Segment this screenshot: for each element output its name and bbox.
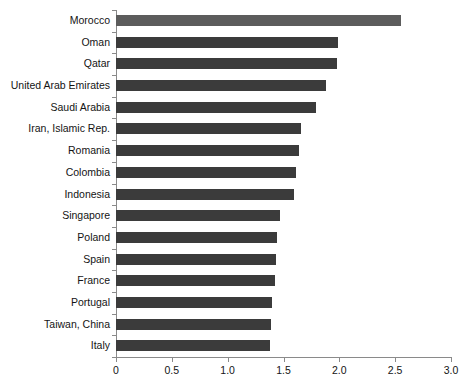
category-label: Colombia [66,164,110,180]
bar-row: Singapore [116,205,451,227]
category-label: Qatar [84,55,110,71]
category-label: Indonesia [64,186,110,202]
category-label: United Arab Emirates [11,77,110,93]
category-label: Oman [81,34,110,50]
plot-area: MoroccoOmanQatarUnited Arab EmiratesSaud… [116,10,451,357]
bar [116,123,301,134]
bar-row: Spain [116,249,451,271]
x-axis-tick [116,357,117,362]
bar-row: Colombia [116,162,451,184]
x-axis-tick [228,357,229,362]
bar-row: Morocco [116,10,451,32]
bar-row: Taiwan, China [116,314,451,336]
bar-row: Qatar [116,53,451,75]
category-label: Romania [68,142,110,158]
bar [116,37,338,48]
x-axis-tick-label: 1.5 [276,364,291,376]
bar [116,167,296,178]
x-axis-tick-label: 0 [113,364,119,376]
category-label: Morocco [70,12,110,28]
category-label: Portugal [71,294,110,310]
x-axis-tick [395,357,396,362]
bar-row: Indonesia [116,184,451,206]
category-label: France [77,272,110,288]
category-label: Taiwan, China [44,316,110,332]
x-axis-tick [172,357,173,362]
category-label: Italy [91,337,110,353]
bar-row: France [116,270,451,292]
bar-row: United Arab Emirates [116,75,451,97]
bar-row: Oman [116,32,451,54]
bar [116,210,280,221]
bar [116,189,294,200]
category-label: Singapore [62,207,110,223]
x-axis-tick [451,357,452,362]
category-label: Spain [83,251,110,267]
x-axis-tick-label: 2.0 [332,364,347,376]
x-axis-tick-label: 1.0 [220,364,235,376]
bar [116,319,271,330]
bar [116,80,326,91]
bar-row: Italy [116,335,451,357]
bar [116,15,401,26]
bar [116,145,299,156]
x-axis-tick [284,357,285,362]
x-axis-tick-label: 3.0 [444,364,459,376]
bar-chart: 00.51.01.52.02.53.0 MoroccoOmanQatarUnit… [0,0,467,386]
x-axis-tick-label: 0.5 [165,364,180,376]
bar-row: Romania [116,140,451,162]
bar [116,275,275,286]
category-label: Poland [77,229,110,245]
bar [116,102,316,113]
bar [116,340,270,351]
bar-row: Saudi Arabia [116,97,451,119]
x-axis-tick [339,357,340,362]
category-label: Iran, Islamic Rep. [28,120,110,136]
x-axis-tick-label: 2.5 [388,364,403,376]
bar-row: Portugal [116,292,451,314]
bar [116,297,272,308]
bar [116,254,276,265]
bar-row: Poland [116,227,451,249]
bar [116,232,277,243]
category-label: Saudi Arabia [50,99,110,115]
bar-row: Iran, Islamic Rep. [116,118,451,140]
bar [116,58,337,69]
